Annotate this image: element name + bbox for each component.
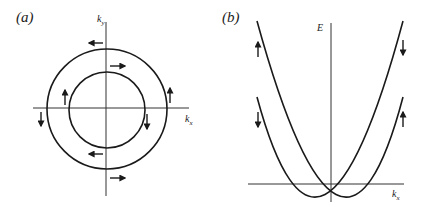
kx-axis-label: kx	[392, 188, 400, 202]
figure: (a) ky kx (b) E kx	[0, 0, 424, 207]
energy-axis-label: E	[316, 22, 323, 33]
band-shifted-right	[257, 21, 403, 197]
ky-axis-label: ky	[97, 13, 105, 27]
inner-fermi-circle	[69, 72, 145, 148]
outer-fermi-circle	[47, 49, 167, 169]
panel-b: (b) E kx	[222, 9, 404, 202]
panel-b-label: (b)	[222, 9, 240, 26]
panel-a-label: (a)	[16, 9, 34, 26]
kx-axis-label: kx	[185, 113, 193, 127]
panel-a: (a) ky kx	[16, 9, 193, 196]
band-shifted-left	[257, 21, 403, 197]
